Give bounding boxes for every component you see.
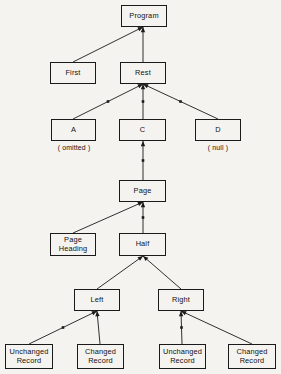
- edge-right-to-half: [143, 256, 181, 289]
- node-unchanged-left[interactable]: Unchanged Record: [5, 344, 53, 369]
- edge-left-to-half: [97, 256, 143, 289]
- node-half[interactable]: Half: [119, 233, 166, 256]
- edge-unchanged-left-to-left: [29, 311, 97, 344]
- edge-changed-right-to-right: [181, 311, 252, 344]
- node-a[interactable]: A: [51, 119, 96, 141]
- edge-rest-to-program: [141, 27, 145, 62]
- edge-midpoint-tick: [142, 159, 145, 162]
- node-left[interactable]: Left: [74, 289, 120, 311]
- edge-midpoint-tick: [62, 326, 65, 329]
- node-page-heading[interactable]: Page Heading: [50, 233, 96, 256]
- edge-a-to-rest: [73, 84, 143, 119]
- arrowhead: [138, 256, 143, 261]
- edge-midpoint-tick: [180, 326, 183, 329]
- edge-unchanged-right-to-right: [179, 311, 183, 344]
- tree-diagram: ProgramFirstRestACDPagePage HeadingHalfL…: [0, 0, 281, 374]
- annotation-omitted-note: ( omitted ): [45, 144, 103, 151]
- edge-midpoint-tick: [179, 100, 182, 103]
- edge-midpoint-tick: [107, 100, 110, 103]
- arrowhead: [141, 141, 145, 146]
- edge-midpoint-tick: [142, 100, 145, 103]
- edge-d-to-rest: [143, 84, 218, 119]
- node-changed-left[interactable]: Changed Record: [77, 344, 124, 369]
- annotation-null-note: ( null ): [192, 144, 244, 151]
- edge-midpoint-tick: [142, 216, 145, 219]
- node-changed-right[interactable]: Changed Record: [228, 344, 276, 369]
- node-d[interactable]: D: [195, 119, 241, 141]
- edge-half-to-page: [141, 202, 145, 233]
- node-page[interactable]: Page: [119, 180, 166, 202]
- node-unchanged-right[interactable]: Unchanged Record: [159, 344, 206, 369]
- edge-changed-left-to-left: [95, 311, 100, 344]
- edge-page-to-c: [141, 141, 145, 180]
- edge-c-to-rest: [141, 84, 145, 119]
- edge-page-heading-to-page: [73, 202, 143, 233]
- node-program[interactable]: Program: [121, 5, 167, 27]
- edge-first-to-program: [73, 27, 143, 62]
- node-right[interactable]: Right: [158, 289, 204, 311]
- node-rest[interactable]: Rest: [120, 62, 166, 84]
- node-c[interactable]: C: [119, 119, 166, 141]
- node-first[interactable]: First: [50, 62, 96, 84]
